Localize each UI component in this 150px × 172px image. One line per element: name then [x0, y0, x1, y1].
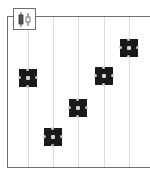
data-point-5[interactable] — [120, 39, 138, 57]
gridline — [104, 17, 105, 167]
boxplot-icon — [17, 12, 33, 27]
data-point-2[interactable] — [44, 128, 62, 146]
gridline — [78, 17, 79, 167]
data-point-4[interactable] — [95, 67, 113, 85]
gridline — [28, 17, 29, 167]
chart-type-tab[interactable] — [13, 8, 36, 30]
data-point-3[interactable] — [69, 99, 87, 117]
data-point-1[interactable] — [19, 69, 37, 87]
